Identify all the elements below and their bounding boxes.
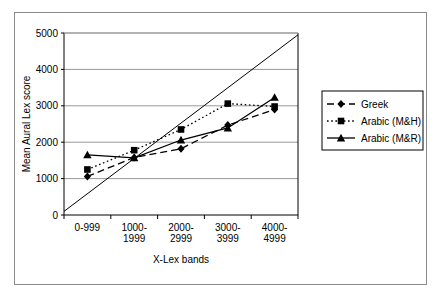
- ytick-label-0: 0: [52, 210, 58, 221]
- data-point-1-1: [131, 147, 138, 154]
- line-chart: 0100020003000400050000-9991000-19992000-…: [0, 0, 441, 297]
- ytick-label-2000: 2000: [36, 137, 59, 148]
- xtick-label-0-line-0: 0-999: [75, 222, 101, 233]
- data-point-1-4: [271, 103, 278, 110]
- legend: GreekArabic (M&H)Arabic (M&R): [322, 91, 423, 150]
- data-point-1-2: [178, 126, 185, 133]
- xtick-label-2-line-0: 2000-: [168, 222, 194, 233]
- xtick-label-2-line-1: 2999: [170, 233, 193, 244]
- ytick-label-3000: 3000: [36, 100, 59, 111]
- data-point-2-4: [270, 93, 278, 101]
- data-point-1-0: [84, 166, 91, 173]
- xtick-label-3-line-1: 3999: [217, 233, 240, 244]
- legend-marker-1: [338, 118, 345, 125]
- ytick-label-5000: 5000: [36, 28, 59, 39]
- chart-figure: 0100020003000400050000-9991000-19992000-…: [0, 0, 441, 297]
- xtick-label-1-line-1: 1999: [123, 233, 146, 244]
- y-axis-title: Mean Aural Lex score: [21, 75, 32, 172]
- data-point-0-2: [177, 145, 184, 153]
- xtick-label-3-line-0: 3000-: [215, 222, 241, 233]
- x-axis-title: X-Lex bands: [153, 254, 209, 265]
- xtick-label-1-line-0: 1000-: [121, 222, 147, 233]
- ytick-label-4000: 4000: [36, 64, 59, 75]
- legend-label-0: Greek: [361, 99, 389, 110]
- data-point-0-0: [84, 172, 91, 180]
- legend-label-2: Arabic (M&R): [361, 133, 421, 144]
- data-point-1-3: [225, 100, 232, 107]
- xtick-label-4-line-0: 4000-: [262, 222, 288, 233]
- ytick-label-1000: 1000: [36, 173, 59, 184]
- legend-label-1: Arabic (M&H): [361, 116, 421, 127]
- xtick-label-4-line-1: 4999: [263, 233, 286, 244]
- diagonal-reference-line: [64, 35, 298, 212]
